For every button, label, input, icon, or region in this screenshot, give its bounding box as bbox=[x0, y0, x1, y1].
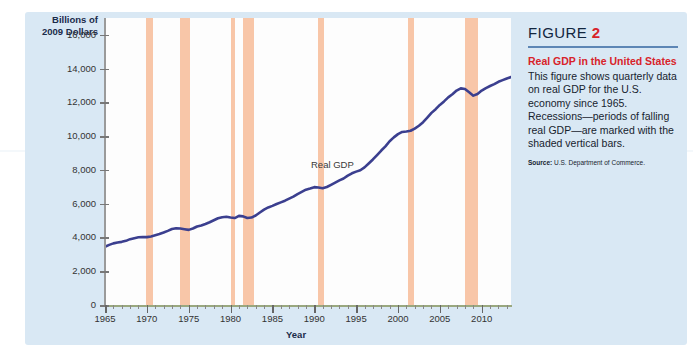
x-axis-tick-minor bbox=[164, 305, 165, 309]
y-axis-tick-label: 4,000 bbox=[36, 231, 96, 242]
x-axis-tick-minor bbox=[205, 305, 206, 309]
x-axis-tick-minor bbox=[281, 305, 282, 309]
y-axis-tick-label: 14,000 bbox=[36, 63, 96, 74]
x-axis-tick-label: 1980 bbox=[211, 313, 251, 324]
y-axis-tick bbox=[100, 69, 109, 71]
x-axis-tick-minor bbox=[122, 305, 123, 309]
x-axis-tick-minor bbox=[197, 305, 198, 309]
x-axis-tick-label: 2010 bbox=[462, 313, 502, 324]
x-axis-tick-minor bbox=[264, 305, 265, 309]
y-axis-tick bbox=[100, 170, 109, 172]
x-axis-tick-minor bbox=[289, 305, 290, 309]
x-axis-tick-major bbox=[482, 305, 484, 313]
x-axis-tick-major bbox=[105, 305, 107, 313]
figure-rule bbox=[528, 46, 678, 48]
x-axis-tick-minor bbox=[256, 305, 257, 309]
x-axis-tick-minor bbox=[381, 305, 382, 309]
x-axis-tick-minor bbox=[172, 305, 173, 309]
x-axis-tick-minor bbox=[423, 305, 424, 309]
x-axis-tick-minor bbox=[498, 305, 499, 309]
y-axis-tick-label: 6,000 bbox=[36, 198, 96, 209]
x-axis-tick-minor bbox=[431, 305, 432, 309]
figure-heading-word: FIGURE bbox=[528, 24, 587, 41]
y-axis-tick-label: 0 bbox=[36, 299, 96, 310]
x-axis-tick-minor bbox=[138, 305, 139, 309]
figure-root: Billions of 2009 Dollars 02,0004,0006,00… bbox=[0, 0, 693, 358]
series-annotation-real-gdp: Real GDP bbox=[311, 159, 354, 170]
figure-caption: FIGURE 2 Real GDP in the United States T… bbox=[528, 24, 678, 166]
x-axis-tick-minor bbox=[448, 305, 449, 309]
x-axis-tick-major bbox=[231, 305, 233, 313]
y-axis-tick-label: 8,000 bbox=[36, 164, 96, 175]
x-axis-tick-major bbox=[356, 305, 358, 313]
x-axis-tick-minor bbox=[415, 305, 416, 309]
x-axis-tick-major bbox=[398, 305, 400, 313]
x-axis-tick-label: 1985 bbox=[252, 313, 292, 324]
x-axis-tick-major bbox=[189, 305, 191, 313]
x-axis-tick-minor bbox=[239, 305, 240, 309]
x-axis-tick-minor bbox=[473, 305, 474, 309]
figure-heading-number: 2 bbox=[592, 24, 601, 41]
x-axis-tick-label: 2000 bbox=[378, 313, 418, 324]
x-axis-tick-minor bbox=[306, 305, 307, 309]
y-axis-labels: 02,0004,0006,0008,00010,00012,00014,0001… bbox=[34, 18, 96, 305]
x-axis-tick-minor bbox=[348, 305, 349, 309]
x-axis-tick-label: 1975 bbox=[169, 313, 209, 324]
x-axis-tick-label: 1970 bbox=[127, 313, 167, 324]
figure-source-text: U.S. Department of Commerce. bbox=[554, 159, 645, 166]
x-axis-tick-minor bbox=[323, 305, 324, 309]
plot-area bbox=[105, 18, 511, 305]
y-axis-tick-label: 12,000 bbox=[36, 96, 96, 107]
x-axis-tick-minor bbox=[490, 305, 491, 309]
y-axis-tick-label: 16,000 bbox=[36, 29, 96, 40]
y-axis-tick bbox=[100, 237, 109, 239]
figure-heading: FIGURE 2 bbox=[528, 24, 678, 41]
x-axis-tick-minor bbox=[113, 305, 114, 309]
x-axis-tick-minor bbox=[339, 305, 340, 309]
x-axis-title: Year bbox=[286, 329, 306, 340]
x-axis-line bbox=[105, 305, 512, 307]
x-axis-tick-minor bbox=[214, 305, 215, 309]
x-axis-tick-minor bbox=[465, 305, 466, 309]
x-axis-tick-major bbox=[272, 305, 274, 313]
x-axis-tick-minor bbox=[130, 305, 131, 309]
x-axis-tick-minor bbox=[373, 305, 374, 309]
x-axis-tick-major bbox=[147, 305, 149, 313]
figure-title: Real GDP in the United States bbox=[528, 55, 678, 68]
x-axis-tick-label: 1965 bbox=[85, 313, 125, 324]
x-axis-tick-minor bbox=[390, 305, 391, 309]
y-axis-line bbox=[104, 18, 106, 306]
gdp-line-chart bbox=[105, 18, 511, 305]
x-axis-tick-minor bbox=[507, 305, 508, 309]
y-axis-tick-label: 2,000 bbox=[36, 265, 96, 276]
figure-body-text: This figure shows quarterly data on real… bbox=[528, 70, 678, 152]
x-axis-tick-minor bbox=[222, 305, 223, 309]
x-axis-tick-label: 1990 bbox=[294, 313, 334, 324]
x-axis-tick-minor bbox=[331, 305, 332, 309]
x-axis-tick-label: 1995 bbox=[336, 313, 376, 324]
y-axis-tick-label: 10,000 bbox=[36, 130, 96, 141]
x-axis-tick-minor bbox=[365, 305, 366, 309]
x-axis-tick-major bbox=[440, 305, 442, 313]
x-axis-tick-label: 2005 bbox=[420, 313, 460, 324]
y-axis-tick bbox=[100, 271, 109, 273]
y-axis-tick bbox=[100, 102, 109, 104]
x-axis-tick-minor bbox=[406, 305, 407, 309]
x-axis-tick-minor bbox=[180, 305, 181, 309]
y-axis-tick bbox=[100, 35, 109, 37]
figure-source: Source: U.S. Department of Commerce. bbox=[528, 159, 678, 166]
x-axis-tick-minor bbox=[155, 305, 156, 309]
x-axis-tick-major bbox=[314, 305, 316, 313]
x-axis-tick-minor bbox=[457, 305, 458, 309]
y-axis-tick bbox=[100, 204, 109, 206]
y-axis-tick bbox=[100, 136, 109, 138]
figure-source-label: Source: bbox=[528, 159, 552, 166]
x-axis-tick-minor bbox=[247, 305, 248, 309]
x-axis-tick-minor bbox=[298, 305, 299, 309]
